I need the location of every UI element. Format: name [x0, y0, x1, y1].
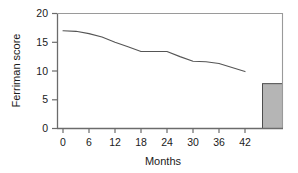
x-tick-label-24: 24 — [161, 136, 173, 148]
x-tick-label-36: 36 — [213, 136, 225, 148]
chart-figure: 0 5 10 15 20 0 6 12 18 24 30 36 42 — [0, 0, 298, 173]
x-tick-label-6: 6 — [86, 136, 92, 148]
x-tick-label-42: 42 — [239, 136, 251, 148]
y-tick-label-5: 5 — [42, 93, 48, 105]
y-tick-label-15: 15 — [36, 36, 48, 48]
y-tick-label-10: 10 — [36, 65, 48, 77]
x-tick-label-18: 18 — [135, 136, 147, 148]
bar-rect — [263, 84, 283, 129]
x-axis-title: Months — [145, 155, 182, 167]
y-tick-label-20: 20 — [36, 7, 48, 19]
plot-area-background — [57, 13, 283, 128]
final-value-bar — [263, 84, 283, 129]
x-axis-tick-labels: 0 6 12 18 24 30 36 42 — [60, 136, 251, 148]
x-tick-label-30: 30 — [187, 136, 199, 148]
y-axis-tick-labels: 0 5 10 15 20 — [36, 7, 48, 134]
x-tick-label-12: 12 — [109, 136, 121, 148]
ferriman-score-line-chart: 0 5 10 15 20 0 6 12 18 24 30 36 42 — [0, 0, 298, 173]
x-tick-label-0: 0 — [60, 136, 66, 148]
y-axis-ticks — [52, 14, 57, 129]
y-tick-label-0: 0 — [42, 122, 48, 134]
y-axis-title: Ferriman score — [10, 34, 22, 108]
